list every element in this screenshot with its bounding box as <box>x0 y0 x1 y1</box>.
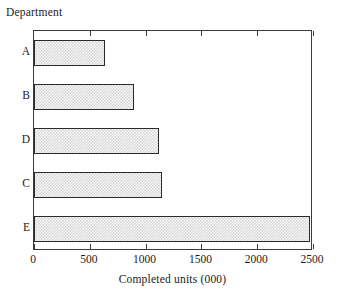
y-tick-label: D <box>0 134 30 146</box>
y-tick-label: E <box>0 222 30 234</box>
x-tick-mark-top <box>146 31 147 36</box>
x-tick-label: 2500 <box>301 253 324 265</box>
plot-area <box>33 30 312 250</box>
y-tick-label: A <box>0 46 30 58</box>
x-tick-mark <box>90 244 91 249</box>
x-tick-mark <box>313 244 314 249</box>
y-tick-label: B <box>0 90 30 102</box>
x-tick-mark-top <box>90 31 91 36</box>
x-tick-label: 500 <box>80 253 97 265</box>
bar-chart: Department ABDCE 05001000150020002500 Co… <box>0 0 341 298</box>
x-tick-mark <box>201 244 202 249</box>
x-tick-mark <box>146 244 147 249</box>
bar <box>34 172 162 198</box>
bar <box>34 216 310 242</box>
y-tick-label: C <box>0 178 30 190</box>
x-tick-mark <box>257 244 258 249</box>
x-tick-label: 1500 <box>189 253 212 265</box>
x-tick-mark-top <box>313 31 314 36</box>
x-tick-label: 1000 <box>133 253 156 265</box>
x-tick-mark-top <box>201 31 202 36</box>
x-axis-title: Completed units (000) <box>33 273 312 285</box>
bar <box>34 84 134 110</box>
x-tick-mark <box>34 244 35 249</box>
x-tick-label: 0 <box>30 253 36 265</box>
bar <box>34 128 159 154</box>
y-axis-title: Department <box>6 6 62 18</box>
bar <box>34 40 105 66</box>
x-tick-label: 2000 <box>245 253 268 265</box>
x-tick-mark-top <box>257 31 258 36</box>
